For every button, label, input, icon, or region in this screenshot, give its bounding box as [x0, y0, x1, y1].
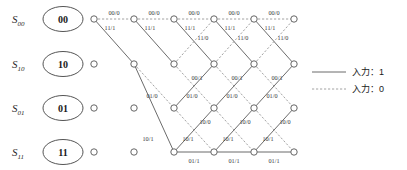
edge-label: 11/0 [198, 34, 209, 41]
trellis-node [291, 105, 297, 111]
edge-label: 10/0 [239, 118, 250, 125]
trellis-node-inactive [131, 105, 137, 111]
trellis-node [291, 149, 297, 155]
state-value-label: 00 [58, 14, 68, 25]
trellis-node [211, 61, 217, 67]
edge-label: 01/1 [228, 157, 239, 164]
edge-label: 10/1 [262, 135, 273, 142]
trellis-node-inactive [91, 105, 97, 111]
edge-label: 11/1 [265, 24, 276, 31]
state-name-label: S01 [12, 102, 25, 117]
trellis-node [171, 16, 177, 22]
state-name-label: S11 [12, 146, 24, 161]
edge-label: 00/1 [231, 74, 242, 81]
state-value-label: 10 [58, 59, 68, 70]
edge-label: 11/0 [238, 34, 249, 41]
legend-label: 入力：0 [352, 83, 384, 94]
edge-label: 11/1 [225, 24, 236, 31]
edge-label: 10/0 [279, 118, 290, 125]
trellis-node [251, 16, 257, 22]
edge-label: 01/0 [146, 92, 157, 99]
edge-label: 11/0 [278, 34, 289, 41]
edge-label: 00/1 [271, 74, 282, 81]
trellis-node [171, 61, 177, 67]
trellis-node [291, 16, 297, 22]
trellis-edge-input0 [134, 64, 174, 108]
trellis-node [91, 16, 97, 22]
trellis-node [211, 105, 217, 111]
edge-label: 10/1 [182, 135, 193, 142]
trellis-node [291, 61, 297, 67]
state-value-label: 01 [58, 103, 68, 114]
edge-label: 00/0 [268, 9, 279, 16]
edge-label: 00/0 [188, 9, 199, 16]
trellis-node [171, 149, 177, 155]
edge-label: 01/0 [266, 92, 277, 99]
edge-label: 00/0 [148, 9, 159, 16]
edge-label: 10/1 [222, 135, 233, 142]
edge-label: 11/1 [145, 24, 156, 31]
edge-label: 00/0 [228, 9, 239, 16]
edge-label: 00/0 [108, 9, 119, 16]
state-name-label: S00 [12, 13, 25, 28]
edge-label: 11/1 [185, 24, 196, 31]
trellis-node-inactive [91, 149, 97, 155]
legend-label: 入力：1 [352, 66, 384, 77]
trellis-diagram-root: S0000S1010S0101S111100/011/100/011/101/0… [0, 0, 407, 170]
trellis-node [171, 105, 177, 111]
trellis-node [251, 61, 257, 67]
trellis-diagram-canvas: S0000S1010S0101S111100/011/100/011/101/0… [0, 0, 407, 170]
edge-label: 01/0 [186, 92, 197, 99]
edge-label: 11/1 [105, 24, 116, 31]
trellis-node [251, 149, 257, 155]
edge-label: 00/1 [191, 74, 202, 81]
state-name-label: S10 [12, 58, 25, 73]
trellis-node [211, 16, 217, 22]
trellis-edge-input1 [134, 64, 174, 152]
edge-label: 01/1 [188, 157, 199, 164]
trellis-node [251, 105, 257, 111]
trellis-node [211, 149, 217, 155]
trellis-node-inactive [131, 149, 137, 155]
edge-label: 10/1 [142, 135, 153, 142]
state-value-label: 11 [58, 147, 67, 158]
trellis-node [131, 61, 137, 67]
trellis-node-inactive [91, 61, 97, 67]
edge-label: 01/1 [268, 157, 279, 164]
edge-label: 10/0 [199, 118, 210, 125]
trellis-node [131, 16, 137, 22]
edge-label: 01/0 [226, 92, 237, 99]
